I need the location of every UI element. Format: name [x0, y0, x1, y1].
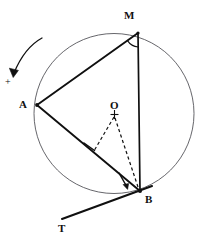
chord-am: [37, 33, 138, 105]
dashed-radius-to-foot: [95, 117, 115, 150]
vertex-dot-a: [35, 103, 39, 107]
chord-mb: [138, 33, 140, 191]
figure-canvas: [0, 0, 203, 240]
vertex-dot-m: [136, 31, 139, 34]
geometry-figure: M A O B T +: [0, 0, 203, 240]
label-point-m: M: [124, 10, 135, 21]
label-point-a: A: [19, 99, 27, 110]
tangent-angle-arrowhead: [123, 184, 129, 190]
label-plus-mark: +: [5, 77, 11, 87]
label-point-o: O: [110, 100, 119, 111]
angle-arc-at-m: [128, 41, 139, 47]
vertex-dot-b: [138, 189, 142, 193]
label-point-b: B: [145, 194, 153, 205]
direction-curved-arrow-shaft: [14, 38, 42, 73]
label-point-t: T: [58, 223, 66, 234]
